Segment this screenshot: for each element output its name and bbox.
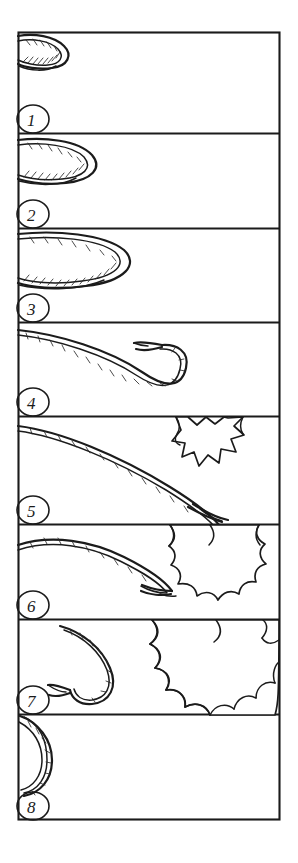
panel-2 bbox=[18, 133, 280, 228]
panel-5 bbox=[18, 416, 280, 524]
panel-4 bbox=[18, 322, 280, 416]
panel-7 bbox=[18, 619, 280, 714]
storyboard-canvas: .fr { fill:none; stroke:#1b1b1b; stroke-… bbox=[0, 0, 298, 863]
panel-6 bbox=[18, 524, 280, 619]
panel-3 bbox=[18, 228, 280, 322]
panel-1 bbox=[18, 32, 280, 133]
panel-8 bbox=[18, 714, 280, 820]
